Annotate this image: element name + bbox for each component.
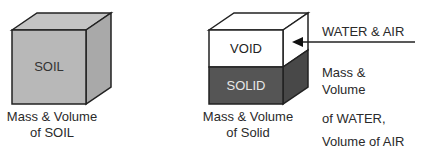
annotation-line4: Volume of AIR <box>322 134 404 150</box>
annotation-line2: Volume <box>322 82 365 98</box>
soil-caption-line2: of SOIL <box>0 125 104 141</box>
annotation-line1: Mass & <box>322 65 365 81</box>
solid-label: SOLID <box>209 78 283 94</box>
solid-caption-line1: Mass & Volume <box>196 109 300 125</box>
soil-caption-line1: Mass & Volume <box>0 109 104 125</box>
void-label: VOID <box>209 41 283 57</box>
annotation-line3: of WATER, <box>322 111 386 127</box>
soil-cube-side <box>86 13 111 104</box>
water-air-label: WATER & AIR <box>322 24 404 40</box>
solid-caption-line2: of Solid <box>196 125 300 141</box>
soil-face-label: SOIL <box>12 59 86 75</box>
